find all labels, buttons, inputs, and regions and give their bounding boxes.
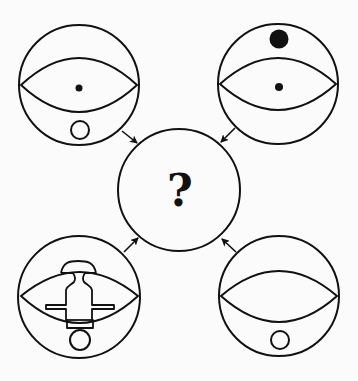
bottom-ring [70, 330, 90, 350]
diagram-canvas: ? [0, 0, 358, 381]
arrow-to-center [124, 238, 138, 252]
question-mark: ? [167, 165, 193, 216]
panel-bottom-left [18, 236, 140, 358]
eye-lens-shape [221, 271, 337, 322]
arrow-to-center [222, 239, 236, 252]
panel-bottom-right [219, 236, 339, 356]
top-filled-dot [270, 30, 289, 49]
outer-circle [18, 236, 140, 358]
center-question-panel: ? [118, 129, 240, 251]
puzzle-diagram: ? [0, 0, 358, 381]
eye-lens-shape [21, 272, 138, 323]
outer-circle [219, 236, 339, 356]
bottom-ring [271, 331, 289, 349]
panel-top-left [19, 25, 139, 145]
inner-dot [275, 83, 283, 91]
inner-dot [76, 85, 83, 92]
bottom-ring [71, 121, 89, 139]
arrow-to-center [122, 131, 137, 143]
arrow-to-center [221, 128, 235, 142]
panel-top-right [218, 24, 338, 144]
